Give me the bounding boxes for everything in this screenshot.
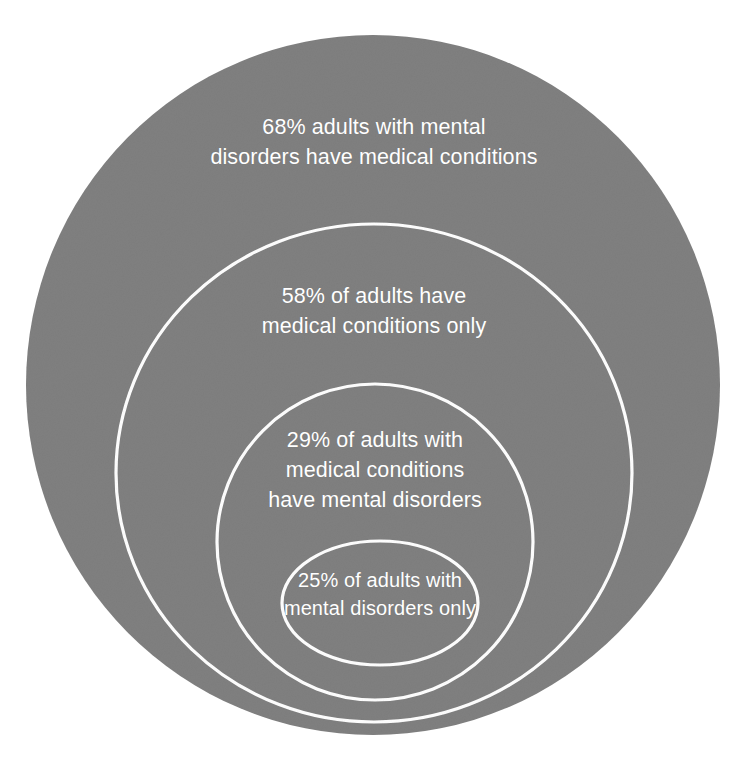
circle-group bbox=[26, 35, 720, 735]
infographic-canvas: 68% adults with mental disorders have me… bbox=[0, 0, 748, 758]
nested-circles-diagram bbox=[0, 0, 748, 758]
